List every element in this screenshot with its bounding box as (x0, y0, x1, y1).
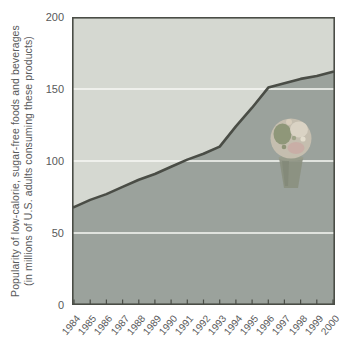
y-tick-label-200: 200 (28, 11, 64, 24)
y-tick-label-100: 100 (28, 155, 64, 168)
y-tick-label-50: 50 (28, 227, 64, 240)
y-axis-label-line1: Popularity of low-calorie, sugar-free fo… (9, 9, 22, 313)
plot-area (72, 17, 335, 305)
area-chart-figure: Popularity of low-calorie, sugar-free fo… (0, 0, 352, 356)
y-tick-label-0: 0 (28, 299, 64, 312)
y-tick-label-150: 150 (28, 83, 64, 96)
